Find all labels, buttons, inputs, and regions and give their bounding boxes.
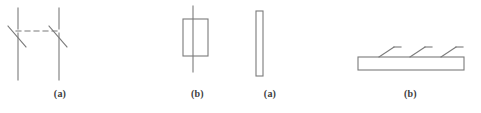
right-contact-arm [49,26,67,47]
figure-sheet: (a) (b) (a) [0,0,481,113]
caption-knife-switch: (a) [0,88,120,99]
left-contact-arm [8,26,26,47]
caption-plate-edge: (a) [240,88,300,99]
fin-3-diagonal [441,47,456,57]
caption-core-coil: (b) [160,88,235,99]
base-bar [358,57,464,70]
fin-2-diagonal [410,47,425,57]
plate-rectangle [256,11,263,76]
caption-finned-plate: (b) [340,88,481,99]
body-rectangle [183,19,208,56]
fin-1-diagonal [379,47,394,57]
